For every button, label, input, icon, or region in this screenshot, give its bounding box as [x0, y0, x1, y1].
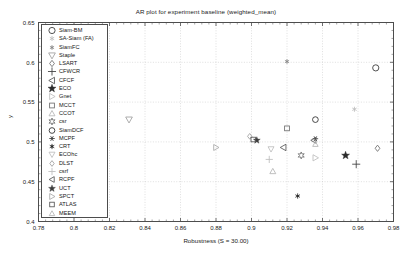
- legend-item-label: MCCT: [59, 101, 75, 109]
- legend-item-label: ECO: [59, 84, 71, 92]
- y-tick-label: 0.5: [26, 139, 35, 145]
- y-tick-label: 0.55: [23, 99, 35, 105]
- legend-item[interactable]: LSART: [42, 59, 107, 67]
- data-point: [214, 144, 219, 150]
- legend-marker-icon: [45, 192, 59, 200]
- legend-marker-icon: [45, 134, 59, 142]
- legend-marker-icon: [45, 150, 59, 158]
- legend-item-label: SiamFC: [59, 43, 80, 51]
- legend-marker-icon: [45, 101, 59, 109]
- legend-marker-icon: [45, 209, 59, 217]
- legend-item[interactable]: MCCT: [42, 101, 107, 109]
- legend-item-label: CRT: [59, 142, 71, 150]
- legend-item[interactable]: ECO: [42, 84, 107, 92]
- x-tick-label: 0.9: [247, 225, 256, 231]
- legend-item-label: UCT: [59, 184, 71, 192]
- legend-marker-icon: [45, 109, 59, 117]
- legend-marker-icon: [45, 92, 59, 100]
- data-point: [270, 168, 276, 173]
- legend-marker-icon: [45, 59, 59, 67]
- legend-item[interactable]: Gnet: [42, 92, 107, 100]
- legend-marker-icon: [45, 84, 59, 92]
- x-tick-label: 0.8: [70, 225, 79, 231]
- legend-item[interactable]: UCT: [42, 184, 107, 192]
- data-point: [285, 59, 289, 64]
- legend-marker-icon: [45, 200, 59, 208]
- legend-marker-icon: [45, 26, 59, 34]
- x-tick-label: 0.96: [352, 225, 364, 231]
- legend-item-label: Staple: [59, 51, 75, 59]
- data-points: [126, 59, 380, 199]
- legend-item-label: CFWCR: [59, 67, 80, 75]
- legend-item-label: CCOT: [59, 109, 75, 117]
- legend-item-label: csrf: [59, 167, 68, 175]
- legend-item-label: Siam-BM: [59, 26, 82, 34]
- data-point: [352, 107, 356, 112]
- legend-item[interactable]: CRT: [42, 142, 107, 150]
- legend-item-label: SPCT: [59, 192, 74, 200]
- legend-marker-icon: [45, 67, 59, 75]
- data-point: [268, 147, 274, 152]
- legend-item[interactable]: SPCT: [42, 192, 107, 200]
- legend-item-label: MCPF: [59, 134, 75, 142]
- legend-marker-icon: [45, 159, 59, 167]
- x-tick-label: 0.88: [210, 225, 222, 231]
- legend-marker-icon: [45, 51, 59, 59]
- data-point: [266, 156, 273, 163]
- legend-item-label: LSART: [59, 59, 77, 67]
- data-point: [126, 117, 133, 123]
- legend-item[interactable]: SiamFC: [42, 43, 107, 51]
- data-point: [373, 65, 379, 71]
- legend-marker-icon: [45, 126, 59, 134]
- legend-item[interactable]: SiamDCF: [42, 126, 107, 134]
- legend-item[interactable]: MCPF: [42, 134, 107, 142]
- legend-item-label: CFCF: [59, 76, 74, 84]
- legend-item-label: Gnet: [59, 92, 71, 100]
- x-tick-label: 0.82: [104, 225, 116, 231]
- chart-legend: Siam-BMSA-Siam (FA)SiamFCStapleLSARTCFWC…: [41, 24, 108, 218]
- legend-item-label: DLST: [59, 159, 74, 167]
- legend-item[interactable]: DLST: [42, 159, 107, 167]
- legend-item[interactable]: csr: [42, 117, 107, 125]
- legend-item-label: SA-Siam (FA): [59, 34, 94, 42]
- legend-item[interactable]: CFCF: [42, 76, 107, 84]
- data-point: [280, 144, 286, 150]
- data-point: [298, 152, 304, 159]
- legend-item[interactable]: RCPF: [42, 175, 107, 183]
- legend-marker-icon: [45, 167, 59, 175]
- legend-item[interactable]: MEEM: [42, 209, 107, 217]
- legend-item[interactable]: csrf: [42, 167, 107, 175]
- legend-marker-icon: [45, 175, 59, 183]
- data-point: [342, 151, 350, 159]
- chart-figure: AR plot for experiment baseline (weighte…: [0, 0, 412, 254]
- data-point: [375, 145, 380, 151]
- legend-item[interactable]: SA-Siam (FA): [42, 34, 107, 42]
- x-axis-label: Robustness (S = 30.00): [38, 237, 394, 244]
- data-point: [352, 160, 360, 168]
- x-tick-label: 0.98: [388, 225, 400, 231]
- legend-marker-icon: [45, 34, 59, 42]
- legend-item[interactable]: ATLAS: [42, 200, 107, 208]
- y-tick-label: 0.6: [26, 60, 35, 66]
- legend-marker-icon: [45, 184, 59, 192]
- y-tick-label: 0.65: [23, 20, 35, 26]
- legend-item-label: ECOhc: [59, 150, 77, 158]
- legend-item[interactable]: Siam-BM: [42, 26, 107, 34]
- x-tick-label: 0.86: [175, 225, 187, 231]
- y-tick-label: 0.4: [26, 219, 35, 225]
- legend-marker-icon: [45, 76, 59, 84]
- legend-item[interactable]: Staple: [42, 51, 107, 59]
- legend-item[interactable]: CCOT: [42, 109, 107, 117]
- y-tick-label: 0.45: [23, 179, 35, 185]
- legend-item-label: csr: [59, 117, 67, 125]
- x-tick-label: 0.78: [33, 225, 45, 231]
- legend-item[interactable]: CFWCR: [42, 67, 107, 75]
- legend-item-label: RCPF: [59, 175, 74, 183]
- data-point: [253, 137, 260, 143]
- data-point: [313, 117, 319, 123]
- data-point: [295, 193, 300, 198]
- legend-marker-icon: [45, 142, 59, 150]
- x-tick-label: 0.92: [281, 225, 293, 231]
- legend-item[interactable]: ECOhc: [42, 150, 107, 158]
- x-tick-label: 0.84: [139, 225, 151, 231]
